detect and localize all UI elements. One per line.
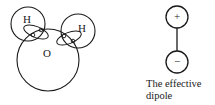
dipole-caption-line-1: The effective: [146, 78, 212, 90]
effective-dipole-group: + −: [166, 6, 188, 73]
dipole-caption-line-2: dipole: [146, 90, 212, 102]
dipole-caption: The effective dipole: [146, 78, 212, 101]
hydrogen-label-left: H: [23, 13, 31, 25]
positive-charge-symbol: +: [174, 10, 180, 22]
negative-charge-symbol: −: [174, 55, 180, 67]
oxygen-atom-circle: [17, 29, 79, 91]
water-molecule-group: H H O: [11, 7, 95, 91]
hydrogen-label-right: H: [78, 22, 86, 34]
oxygen-label: O: [43, 47, 51, 59]
chemistry-figure: H H O + − The effective dipole: [0, 0, 215, 105]
